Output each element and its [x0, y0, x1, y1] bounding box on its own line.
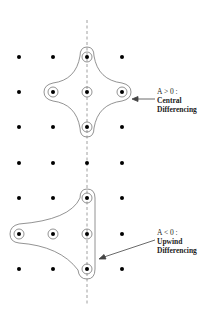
central-label-2: Differencing — [157, 105, 197, 114]
upwind-arrow — [104, 240, 155, 257]
upwind-label-1: Upwind — [157, 237, 183, 246]
grid-dots — [17, 55, 124, 271]
arrows — [99, 97, 155, 260]
central-arrowhead-icon — [132, 97, 138, 102]
stencil-diagram: A > 0 : Central Differencing A < 0 : Upw… — [0, 0, 206, 320]
upwind-label-2: Differencing — [157, 246, 197, 255]
central-condition: A > 0 : — [157, 87, 178, 96]
upwind-arrowhead-icon — [99, 255, 106, 260]
central-label-1: Central — [157, 96, 182, 105]
upwind-condition: A < 0 : — [157, 228, 178, 237]
